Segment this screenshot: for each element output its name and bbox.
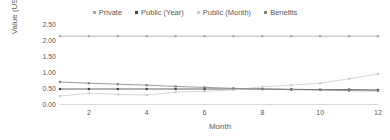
legend-entry[interactable]: Public (Month) (197, 8, 251, 17)
series-marker (290, 35, 292, 37)
series-marker (261, 35, 263, 37)
series-marker (146, 88, 148, 90)
series-marker (117, 83, 119, 85)
series-marker (59, 81, 61, 83)
data-series (59, 73, 379, 97)
legend-label: Private (99, 8, 122, 17)
series-marker (319, 82, 321, 84)
y-tick-label: 0.50 (42, 85, 56, 93)
series-canvas (60, 25, 378, 105)
series-marker (377, 35, 379, 37)
series-marker (348, 90, 350, 92)
series-marker (59, 95, 61, 97)
line-chart: PrivatePublic (Year)Public (Month)Benefi… (0, 0, 390, 140)
series-marker (377, 73, 379, 75)
y-tick-label: 1.50 (42, 53, 56, 61)
series-marker (88, 35, 90, 37)
series-marker (348, 35, 350, 37)
series-marker (146, 84, 148, 86)
series-marker (377, 90, 379, 92)
legend-entry[interactable]: Public (Year) (135, 8, 184, 17)
series-marker (319, 35, 321, 37)
plot-area: 0.000.501.001.502.002.5024681012 (60, 25, 378, 105)
series-marker (203, 86, 205, 88)
series-marker (232, 35, 234, 37)
series-marker (261, 88, 263, 90)
legend-entry[interactable]: Benefits (264, 8, 297, 17)
chart-legend: PrivatePublic (Year)Public (Month)Benefi… (0, 4, 390, 20)
series-marker (175, 35, 177, 37)
series-marker (117, 93, 119, 95)
series-marker (88, 92, 90, 94)
series-marker (59, 35, 61, 37)
series-marker (175, 85, 177, 87)
series-marker (261, 86, 263, 88)
series-marker (146, 94, 148, 96)
series-marker (203, 90, 205, 92)
legend-marker-icon (197, 11, 200, 14)
series-marker (117, 35, 119, 37)
legend-label: Benefits (270, 8, 297, 17)
legend-label: Public (Year) (141, 8, 184, 17)
series-marker (88, 88, 90, 90)
x-tick-label: 10 (316, 109, 324, 117)
series-marker (59, 88, 61, 90)
y-tick-label: 2.00 (42, 37, 56, 45)
series-marker (348, 78, 350, 80)
x-axis-title: Month (60, 122, 380, 131)
y-tick-label: 1.00 (42, 69, 56, 77)
x-tick-label: 6 (203, 109, 207, 117)
series-marker (146, 35, 148, 37)
series-marker (232, 87, 234, 89)
series-marker (175, 91, 177, 93)
series-marker (117, 88, 119, 90)
series-marker (290, 89, 292, 91)
series-marker (290, 84, 292, 86)
series-marker (175, 88, 177, 90)
series-line (60, 74, 378, 96)
x-tick-label: 8 (260, 109, 264, 117)
y-tick-label: 0.00 (42, 101, 56, 109)
series-marker (319, 89, 321, 91)
legend-label: Public (Month) (203, 8, 251, 17)
y-tick-label: 2.50 (42, 21, 56, 29)
legend-marker-icon (264, 11, 267, 14)
series-marker (203, 35, 205, 37)
x-tick-label: 4 (145, 109, 149, 117)
x-tick-label: 2 (87, 109, 91, 117)
series-marker (88, 82, 90, 84)
y-axis-title: Value (USD) (8, 0, 22, 48)
legend-marker-icon (135, 11, 138, 14)
legend-marker-icon (93, 11, 96, 14)
data-series (59, 35, 379, 37)
legend-entry[interactable]: Private (93, 8, 122, 17)
x-tick-label: 12 (374, 109, 382, 117)
